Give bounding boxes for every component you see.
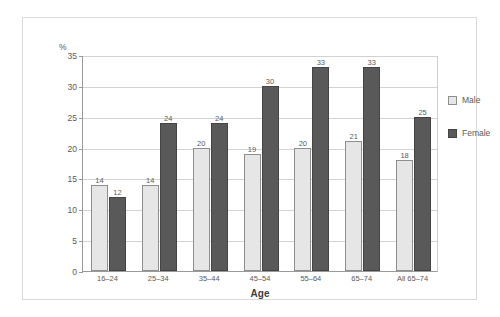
- bar-male[interactable]: 14: [91, 185, 108, 271]
- legend-item-label: Male: [462, 96, 480, 105]
- bar-female[interactable]: 24: [211, 123, 228, 271]
- bar-male[interactable]: 20: [294, 148, 311, 271]
- bar-female[interactable]: 30: [262, 86, 279, 271]
- y-axis-tick-labels: 35302520151050: [51, 56, 77, 272]
- y-axis-tick-mark: [79, 56, 83, 57]
- legend-swatch-icon: [448, 96, 457, 105]
- y-axis-tick-label: 5: [72, 237, 77, 246]
- bar-male[interactable]: 21: [345, 141, 362, 271]
- x-axis-title: Age: [82, 289, 438, 299]
- bar-group: 1424: [142, 56, 177, 271]
- y-axis-tick-label: 15: [68, 175, 77, 184]
- legend-item-label: Female: [462, 129, 490, 138]
- bar-value-label: 12: [113, 189, 121, 197]
- y-axis-tick-label: 20: [68, 144, 77, 153]
- y-axis-tick-label: 0: [72, 268, 77, 277]
- bar-female[interactable]: 12: [109, 197, 126, 271]
- y-axis-tick-label: 10: [68, 206, 77, 215]
- x-axis-tick-label: 55–64: [300, 275, 321, 283]
- x-axis-tick-label: 35–44: [199, 275, 220, 283]
- legend-item-female[interactable]: Female: [448, 129, 490, 138]
- bar-female[interactable]: 33: [312, 67, 329, 271]
- chart-figure-frame: % 35302520151050 14121424202419302033213…: [22, 17, 477, 300]
- bar-group: 2033: [294, 56, 329, 271]
- bar-value-label: 21: [350, 133, 358, 141]
- y-axis-tick-mark: [79, 210, 83, 211]
- x-axis-tick-labels: 16–2425–3435–4445–5455–6465–74All 65–74: [82, 275, 438, 289]
- y-axis-tick-label: 25: [68, 113, 77, 122]
- bar-male[interactable]: 18: [396, 160, 413, 271]
- bar-value-label: 33: [317, 59, 325, 67]
- x-axis-tick-label: 65–74: [351, 275, 372, 283]
- bar-male[interactable]: 14: [142, 185, 159, 271]
- y-axis-tick-mark: [79, 272, 83, 273]
- bar-value-label: 20: [197, 140, 205, 148]
- bar-group: 1825: [396, 56, 431, 271]
- bar-value-label: 24: [215, 115, 223, 123]
- x-axis-tick-label: 16–24: [97, 275, 118, 283]
- bar-group: 1930: [244, 56, 279, 271]
- bar-value-label: 30: [266, 78, 274, 86]
- bar-value-label: 18: [400, 152, 408, 160]
- legend-swatch-icon: [448, 129, 457, 138]
- bar-female[interactable]: 25: [414, 117, 431, 271]
- y-axis-tick-mark: [79, 179, 83, 180]
- y-axis-tick-label: 35: [68, 52, 77, 61]
- bar-male[interactable]: 19: [244, 154, 261, 271]
- x-axis-tick-label: All 65–74: [397, 275, 428, 283]
- x-axis-tick-label: 45–54: [250, 275, 271, 283]
- bar-value-label: 14: [95, 177, 103, 185]
- y-axis-tick-mark: [79, 87, 83, 88]
- y-axis-tick-label: 30: [68, 83, 77, 92]
- bar-value-label: 25: [418, 109, 426, 117]
- bar-value-label: 19: [248, 146, 256, 154]
- y-axis-tick-mark: [79, 118, 83, 119]
- chart-legend: MaleFemale: [448, 96, 490, 162]
- y-axis-tick-mark: [79, 241, 83, 242]
- y-axis-unit-label: %: [59, 43, 67, 52]
- x-axis-tick-label: 25–34: [148, 275, 169, 283]
- bar-group: 1412: [91, 56, 126, 271]
- bar-value-label: 14: [146, 177, 154, 185]
- bar-group: 2133: [345, 56, 380, 271]
- y-axis-tick-mark: [79, 149, 83, 150]
- plot-area: 1412142420241930203321331825: [82, 56, 438, 272]
- bar-value-label: 33: [368, 59, 376, 67]
- bar-male[interactable]: 20: [193, 148, 210, 271]
- bar-value-label: 20: [299, 140, 307, 148]
- legend-item-male[interactable]: Male: [448, 96, 490, 105]
- bar-value-label: 24: [164, 115, 172, 123]
- bar-female[interactable]: 33: [363, 67, 380, 271]
- bar-female[interactable]: 24: [160, 123, 177, 271]
- bar-group: 2024: [193, 56, 228, 271]
